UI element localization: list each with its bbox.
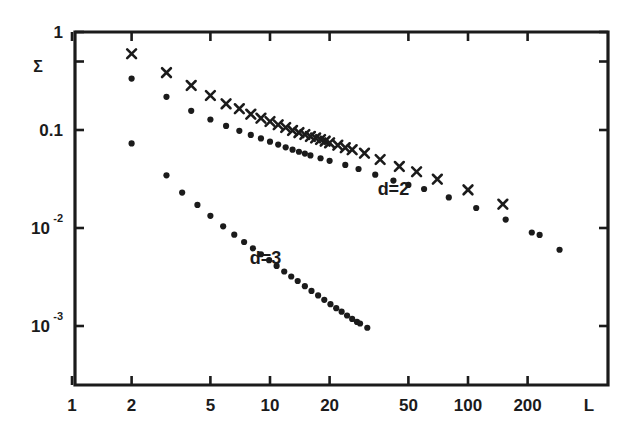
series-d=3 [129, 75, 563, 252]
data-marker-dot [503, 216, 509, 222]
data-marker-dot [344, 312, 350, 318]
data-marker-dot [188, 108, 194, 114]
x-axis-tick-labels: 125102050100200 [67, 396, 542, 415]
data-marker-dot [129, 75, 135, 81]
data-marker-dot [296, 149, 302, 155]
data-series-markers [127, 49, 562, 330]
data-marker-cross [433, 175, 442, 184]
plot-border [75, 32, 608, 385]
data-marker-dot [372, 172, 378, 178]
x-tick-label-1: 1 [67, 396, 76, 415]
data-marker-dot [357, 320, 363, 326]
axis-names: ΣL [33, 58, 594, 415]
data-marker-dot [333, 305, 339, 311]
x-tick-label-2: 2 [127, 396, 136, 415]
x-tick-label-200: 200 [513, 396, 541, 415]
y-axis-name: Σ [33, 58, 43, 75]
data-marker-cross [395, 162, 404, 171]
data-marker-dot [275, 141, 281, 147]
series-d=3-steep [129, 140, 371, 331]
plot-frame [75, 32, 608, 385]
data-marker-dot [207, 116, 213, 122]
data-marker-dot [364, 325, 370, 331]
data-marker-dot [220, 223, 226, 229]
data-marker-dot [529, 229, 535, 235]
data-marker-dot [327, 158, 333, 164]
data-marker-cross [376, 155, 385, 164]
data-marker-dot [163, 94, 169, 100]
data-marker-cross [246, 110, 255, 119]
scatter-plot-figure: 125102050100200 10.110-210-3 d=2d=3 ΣL [0, 0, 638, 447]
data-marker-cross [206, 91, 215, 100]
x-axis-name: L [584, 396, 594, 415]
data-marker-dot [342, 162, 348, 168]
y-tick-exponent: -2 [53, 212, 63, 224]
data-marker-dot [355, 166, 361, 172]
data-marker-dot [556, 247, 562, 253]
data-marker-cross [464, 185, 473, 194]
y-tick-label-0.001: 10-3 [31, 310, 63, 336]
data-marker-dot [295, 278, 301, 284]
data-marker-dot [537, 232, 543, 238]
data-marker-cross [360, 149, 369, 158]
data-marker-cross [162, 68, 171, 77]
data-marker-dot [163, 172, 169, 178]
data-marker-dot [179, 189, 185, 195]
data-marker-dot [267, 139, 273, 145]
x-tick-label-5: 5 [206, 396, 215, 415]
data-marker-dot [241, 239, 247, 245]
data-marker-dot [302, 283, 308, 289]
data-marker-cross [222, 99, 231, 108]
data-marker-cross [235, 104, 244, 113]
data-marker-cross [127, 49, 136, 58]
x-tick-label-100: 100 [454, 396, 482, 415]
data-marker-dot [283, 144, 289, 150]
y-tick-mantissa: 10 [31, 317, 50, 336]
y-tick-label-0.01: 10-2 [31, 212, 63, 238]
data-marker-dot [315, 292, 321, 298]
data-marker-dot [327, 301, 333, 307]
data-marker-cross [412, 167, 421, 176]
data-marker-dot [258, 135, 264, 141]
data-marker-dot [129, 140, 135, 146]
data-marker-dot [421, 186, 427, 192]
y-tick-exponent: -3 [53, 310, 63, 322]
data-marker-dot [317, 155, 323, 161]
data-marker-dot [339, 309, 345, 315]
data-marker-dot [248, 132, 254, 138]
data-marker-dot [289, 147, 295, 153]
data-marker-dot [231, 232, 237, 238]
data-marker-dot [236, 128, 242, 134]
data-marker-dot [308, 288, 314, 294]
data-marker-cross [498, 200, 507, 209]
y-tick-value: 0.1 [39, 121, 63, 140]
y-tick-mantissa: 10 [31, 219, 50, 238]
x-tick-label-20: 20 [320, 396, 339, 415]
y-tick-label-0.1: 0.1 [39, 121, 63, 140]
data-marker-cross [257, 114, 266, 123]
data-marker-dot [307, 152, 313, 158]
data-marker-dot [207, 213, 213, 219]
y-tick-label-1: 1 [54, 23, 63, 42]
data-marker-dot [288, 273, 294, 279]
figure-page: 125102050100200 10.110-210-3 d=2d=3 ΣL [0, 0, 638, 447]
data-marker-dot [446, 194, 452, 200]
data-marker-dot [321, 297, 327, 303]
x-tick-label-10: 10 [261, 396, 280, 415]
data-marker-dot [302, 150, 308, 156]
annotation-d2: d=2 [378, 179, 410, 199]
series-annotations: d=2d=3 [250, 179, 409, 267]
annotation-d3: d=3 [250, 248, 282, 268]
data-marker-cross [187, 81, 196, 90]
data-marker-dot [194, 202, 200, 208]
data-marker-dot [473, 205, 479, 211]
x-tick-label-50: 50 [399, 396, 418, 415]
y-tick-value: 1 [54, 23, 63, 42]
data-marker-cross [266, 117, 275, 126]
series-d=2 [127, 49, 507, 208]
data-marker-dot [223, 123, 229, 129]
axis-ticks [72, 32, 608, 385]
data-marker-dot [281, 268, 287, 274]
